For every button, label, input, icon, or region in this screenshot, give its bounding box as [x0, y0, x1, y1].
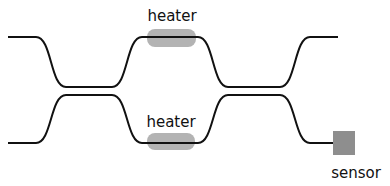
bottom-heater — [147, 133, 195, 150]
bottom-heater-label: heater — [146, 113, 196, 131]
sensor-box — [333, 131, 355, 155]
sensor-label: sensor — [331, 164, 382, 182]
top-heater-label: heater — [147, 7, 197, 25]
interferometer-diagram: heater heater sensor — [0, 0, 390, 186]
